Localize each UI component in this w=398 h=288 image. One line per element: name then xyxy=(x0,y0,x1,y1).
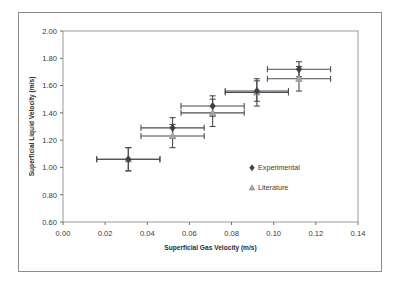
y-tick-label: 1.40 xyxy=(42,109,57,118)
marker-diamond xyxy=(170,124,176,131)
markers-literature xyxy=(125,75,302,162)
marker-diamond xyxy=(210,102,216,109)
y-tick-label: 1.20 xyxy=(42,136,57,145)
x-tick-label: 0.14 xyxy=(351,229,366,238)
marker-triangle xyxy=(249,185,255,190)
chart-figure: 0.600.801.001.201.401.601.802.000.000.02… xyxy=(0,0,398,288)
x-tick-label: 0.10 xyxy=(266,229,281,238)
x-tick-label: 0.04 xyxy=(140,229,155,238)
legend-label: Literature xyxy=(258,183,288,192)
x-axis-title: Superficial Gas Velocity (m/s) xyxy=(164,244,256,252)
legend-entry-experimental: Experimental xyxy=(250,163,301,172)
series-literature xyxy=(97,66,331,170)
x-tick-label: 0.08 xyxy=(224,229,239,238)
labels-layer: Superficial Gas Velocity (m/s)Superficia… xyxy=(28,77,257,252)
data-layer xyxy=(97,62,331,171)
marker-diamond xyxy=(250,165,255,171)
y-axis-title: Superficial Liquid Velocity (m/s) xyxy=(28,77,36,177)
legend-label: Experimental xyxy=(258,163,300,172)
y-tick-label: 1.00 xyxy=(42,163,57,172)
y-tick-label: 0.80 xyxy=(42,191,57,200)
x-tick-label: 0.00 xyxy=(56,229,71,238)
y-tick-label: 2.00 xyxy=(42,27,57,36)
x-tick-label: 0.02 xyxy=(98,229,113,238)
x-tick-label: 0.06 xyxy=(182,229,197,238)
y-tick-label: 0.60 xyxy=(42,218,57,227)
legend-layer: ExperimentalLiterature xyxy=(249,163,300,192)
scatter-chart: 0.600.801.001.201.401.601.802.000.000.02… xyxy=(0,0,398,288)
axes-layer: 0.600.801.001.201.401.601.802.000.000.02… xyxy=(42,27,365,238)
y-tick-label: 1.80 xyxy=(42,54,57,63)
series-experimental xyxy=(97,62,331,171)
legend-entry-literature: Literature xyxy=(249,183,288,192)
x-tick-label: 0.12 xyxy=(308,229,323,238)
y-tick-label: 1.60 xyxy=(42,81,57,90)
